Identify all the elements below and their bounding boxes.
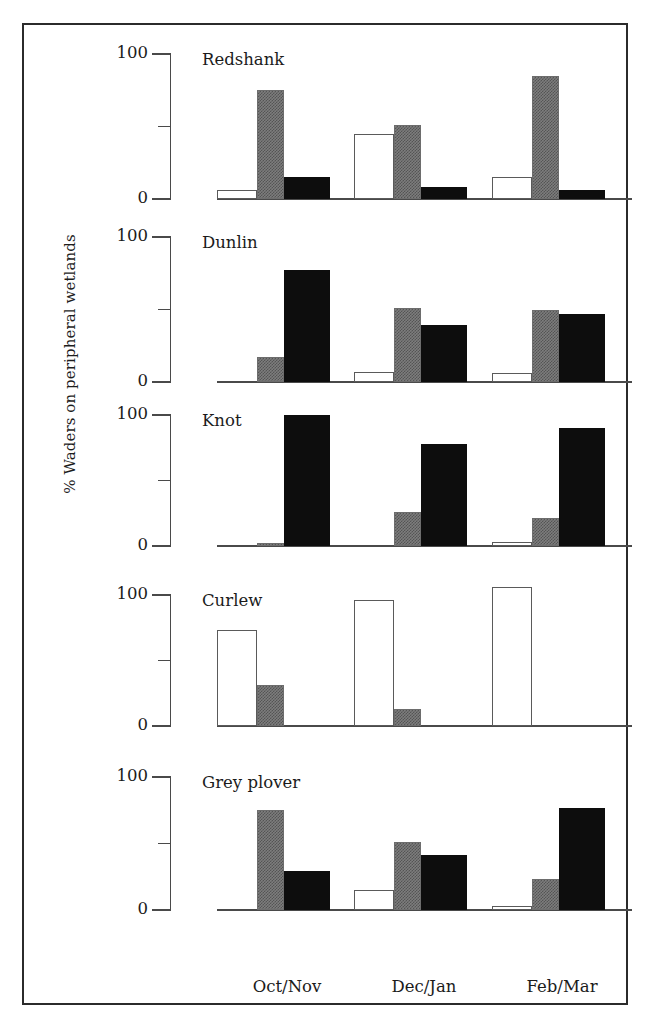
y-tick-label-100: 100 [106,404,148,423]
y-tick-0 [152,198,171,199]
bar-white [354,134,394,199]
y-tick-label-100: 100 [106,43,148,62]
y-tick-50 [158,660,171,661]
bar-white [492,373,532,382]
y-tick-50 [158,309,171,310]
y-tick-0 [152,909,171,910]
panel-title: Curlew [202,591,262,610]
y-tick-100 [152,414,171,415]
bar-black [421,444,467,546]
bar-gray [257,90,284,199]
bar-white [492,177,532,199]
x-axis-labels: Oct/NovDec/JanFeb/Mar [24,977,630,1007]
y-tick-50 [158,126,171,127]
bar-white [217,630,257,726]
y-tick-0 [152,381,171,382]
panel-title: Knot [202,411,242,430]
panel-knot: Knot1000 [24,415,630,586]
panel-title: Grey plover [202,773,300,792]
bar-black [421,325,467,382]
y-tick-label-100: 100 [106,226,148,245]
bar-gray [257,685,284,726]
bar-black [284,270,330,382]
panel-curlew: Curlew1000 [24,595,630,766]
y-tick-100 [152,594,171,595]
y-tick-label-0: 0 [106,371,148,390]
y-tick-label-100: 100 [106,766,148,785]
bar-black [421,855,467,910]
y-tick-100 [152,776,171,777]
bar-gray [532,310,559,383]
panel-title: Redshank [202,50,284,69]
bar-gray [257,810,284,910]
bar-gray [532,518,559,546]
bar-gray [257,357,284,382]
bar-white [217,190,257,199]
y-tick-50 [158,843,171,844]
bar-gray [532,76,559,199]
y-tick-label-0: 0 [106,188,148,207]
y-tick-label-0: 0 [106,715,148,734]
panel-redshank: Redshank1000 [24,54,630,239]
bar-gray [394,125,421,199]
bar-gray [394,842,421,910]
bar-white [354,600,394,726]
bar-black [284,871,330,910]
bar-white [354,372,394,382]
bar-black [559,808,605,910]
bar-black [284,415,330,546]
y-tick-label-0: 0 [106,535,148,554]
bar-black [559,190,605,199]
panel-title: Dunlin [202,233,258,252]
bar-gray [532,879,559,910]
bar-black [421,187,467,199]
bar-gray [394,709,421,726]
x-label-oct-nov: Oct/Nov [217,977,357,996]
y-tick-label-0: 0 [106,899,148,918]
y-tick-0 [152,545,171,546]
x-label-feb-mar: Feb/Mar [492,977,632,996]
bar-white [354,890,394,910]
bar-black [559,314,605,382]
bar-gray [394,512,421,546]
panel-dunlin: Dunlin1000 [24,237,630,422]
y-tick-0 [152,725,171,726]
bar-white [492,906,532,910]
x-label-dec-jan: Dec/Jan [354,977,494,996]
bar-black [559,428,605,546]
bar-black [284,177,330,199]
y-tick-label-100: 100 [106,584,148,603]
y-tick-100 [152,236,171,237]
figure-frame: % Waders on peripheral wetlands Redshank… [22,23,628,1005]
bar-gray [394,308,421,382]
bar-white [492,587,532,726]
y-tick-100 [152,53,171,54]
bar-white [492,542,532,546]
y-tick-50 [158,480,171,481]
panel-grey-plover: Grey plover1000 [24,777,630,950]
bar-gray [257,543,284,546]
